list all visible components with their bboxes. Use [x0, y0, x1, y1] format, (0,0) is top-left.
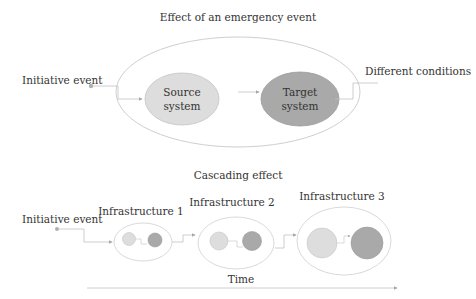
- source-system-label-line1: Source: [163, 86, 200, 98]
- initiative-to-infra1-connector: [59, 229, 112, 242]
- infrastructure-3-source-node: [307, 228, 337, 258]
- infrastructure-1-source-node: [123, 233, 136, 246]
- top-title: Effect of an emergency event: [160, 11, 317, 23]
- infra2-to-infra3-connector: [275, 235, 296, 248]
- initiative-to-source-connector: [93, 86, 142, 99]
- infra2-internal-connector: [228, 241, 243, 247]
- infra3-internal-connector: [337, 236, 350, 243]
- diagram-canvas: Effect of an emergency event Initiative …: [0, 0, 476, 299]
- bottom-title: Cascading effect: [194, 169, 283, 181]
- infrastructure-3-label: Infrastructure 3: [299, 190, 385, 202]
- bottom-initiative-event-dot: [55, 227, 59, 231]
- target-system-label-line2: system: [281, 100, 318, 112]
- infrastructure-2-source-node: [210, 232, 228, 250]
- source-system-label-line2: system: [163, 100, 200, 112]
- infrastructure-2-boundary: [198, 217, 274, 269]
- time-label: Time: [228, 273, 255, 285]
- infrastructure-1-target-node: [148, 233, 162, 247]
- infrastructure-1-boundary: [114, 223, 172, 261]
- bottom-initiative-event-label: Initiative event: [22, 213, 103, 225]
- target-system-label-line1: Target: [283, 86, 318, 98]
- infrastructure-3-target-node: [351, 227, 383, 259]
- infrastructure-2-label: Infrastructure 2: [189, 196, 275, 208]
- infrastructure-1-label: Infrastructure 1: [98, 205, 184, 217]
- top-initiative-event-dot: [89, 84, 93, 88]
- source-system-node: [145, 73, 219, 125]
- infra1-to-infra2-connector: [172, 235, 195, 242]
- different-conditions-label: Different conditions: [365, 65, 471, 77]
- target-system-node: [261, 72, 339, 126]
- infra1-internal-connector: [136, 239, 147, 244]
- infrastructure-2-target-node: [243, 232, 262, 251]
